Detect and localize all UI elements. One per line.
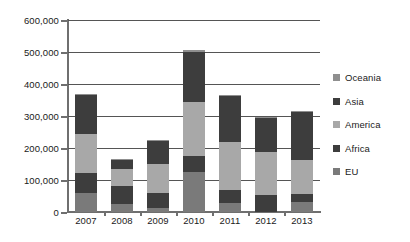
y-axis-tick [61,84,67,86]
bar-segment-asia[interactable] [75,95,97,133]
bar-segment-africa[interactable] [255,195,277,212]
bar-segment-oceania[interactable] [291,111,313,112]
y-axis-label: 600,000 [24,15,59,26]
bar-segment-america[interactable] [291,160,313,195]
bar-group[interactable] [183,20,205,212]
legend-label: America [345,119,381,130]
y-axis-label: 100,000 [24,175,59,186]
bar-segment-eu[interactable] [147,208,169,212]
bar-segment-oceania[interactable] [75,94,97,95]
bar-segment-africa[interactable] [219,190,241,203]
legend-item-oceania[interactable]: Oceania [333,66,407,90]
bar-group[interactable] [219,20,241,212]
bar-segment-asia[interactable] [147,140,169,164]
bar-group[interactable] [147,20,169,212]
bar-segment-america[interactable] [147,164,169,193]
legend-item-america[interactable]: America [333,113,407,137]
plot-area [68,20,320,212]
y-axis-tick [61,116,67,118]
bar-segment-africa[interactable] [147,193,169,208]
legend-swatch-icon [333,145,340,152]
y-axis-label: 0 [54,207,59,218]
y-axis-label: 300,000 [24,111,59,122]
bar-segment-africa[interactable] [291,194,313,202]
y-axis-label: 200,000 [24,143,59,154]
bar-group[interactable] [111,20,133,212]
bar-segment-asia[interactable] [255,117,277,152]
y-axis-tick [61,20,67,22]
stacked-bar-chart: 0100,000200,000300,000400,000500,000600,… [0,0,410,242]
y-axis-label: 500,000 [24,47,59,58]
y-axis-tick [61,180,67,182]
bar-segment-america[interactable] [255,152,277,196]
bar-segment-africa[interactable] [75,173,97,193]
bar-segment-asia[interactable] [183,52,205,102]
legend-label: Oceania [345,72,381,83]
y-axis-tick [61,148,67,150]
chart-legend: OceaniaAsiaAmericaAfricaEU [333,66,407,184]
bar-segment-america[interactable] [219,142,241,189]
bar-segment-america[interactable] [111,169,133,186]
legend-swatch-icon [333,74,340,81]
bar-segment-oceania[interactable] [111,159,133,160]
legend-item-eu[interactable]: EU [333,160,407,184]
bar-segment-eu[interactable] [291,202,313,212]
legend-label: Africa [345,143,370,154]
bar-group[interactable] [75,20,97,212]
y-axis-labels: 0100,000200,000300,000400,000500,000600,… [0,0,59,242]
legend-swatch-icon [333,168,340,175]
bar-segment-africa[interactable] [111,186,133,204]
legend-item-africa[interactable]: Africa [333,137,407,161]
legend-swatch-icon [333,121,340,128]
bar-segment-asia[interactable] [219,96,241,142]
legend-label: EU [345,166,358,177]
bar-segment-america[interactable] [75,134,97,173]
bar-segment-africa[interactable] [183,156,205,172]
y-axis-tick [61,52,67,54]
legend-swatch-icon [333,98,340,105]
legend-item-asia[interactable]: Asia [333,90,407,114]
bar-segment-eu[interactable] [75,193,97,212]
bar-segment-eu[interactable] [219,203,241,212]
legend-label: Asia [345,96,364,107]
bar-segment-america[interactable] [183,102,205,156]
y-axis-tick [61,212,67,214]
bar-segment-eu[interactable] [111,204,133,212]
bar-segment-asia[interactable] [291,112,313,160]
x-axis-label-2013: 2013 [280,215,324,226]
bar-segment-eu[interactable] [183,172,205,212]
bar-segment-oceania[interactable] [219,95,241,96]
bar-segment-oceania[interactable] [183,50,205,52]
bar-segment-asia[interactable] [111,160,133,170]
bar-group[interactable] [291,20,313,212]
y-axis-label: 400,000 [24,79,59,90]
bar-group[interactable] [255,20,277,212]
